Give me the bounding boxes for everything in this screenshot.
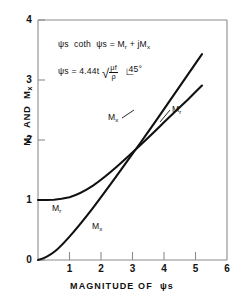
y-axis-title: Mr AND Mx (21, 61, 33, 171)
curve-mx (38, 54, 202, 260)
y-tick-0: 0 (22, 254, 36, 265)
leader-mx-upper (122, 110, 134, 118)
equation-line-1: ψs coth ψs = Mr + jMx (58, 39, 150, 50)
y-tick-4: 4 (22, 14, 36, 25)
axis-frame (38, 20, 227, 260)
equation-2-lhs: ψs = 4.44t (58, 66, 99, 76)
y-tick-1: 1 (22, 194, 36, 205)
curve-mr (38, 86, 202, 200)
x-tick-2: 3 (126, 263, 140, 274)
x-axis-ticks (70, 252, 196, 260)
angle-value: 45° (129, 64, 143, 74)
curve-label-mx-lower: Mx (92, 221, 102, 232)
x-tick-4: 5 (189, 263, 203, 274)
y-axis-ticks (38, 20, 45, 260)
x-tick-0: 1 (63, 263, 77, 274)
equation-line-2: ψs = 4.44t √μfρ ∟45° (58, 64, 149, 80)
radicand-fraction: μfρ (109, 64, 118, 80)
x-tick-5: 6 (220, 263, 234, 274)
x-axis-title: MAGNITUDE OF ψs (0, 281, 244, 291)
radical-icon: √ (102, 66, 109, 81)
curve-label-mr-upper: Mr (172, 104, 181, 115)
curve-label-mx-upper: Mx (108, 112, 118, 123)
x-tick-3: 4 (157, 263, 171, 274)
curve-label-mr-lower: Mr (52, 203, 61, 214)
x-tick-1: 2 (94, 263, 108, 274)
